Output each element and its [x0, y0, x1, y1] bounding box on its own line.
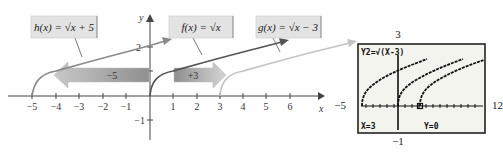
x-axis-arrow-icon — [318, 92, 325, 100]
label-h: h(x) = √x + 5 — [31, 16, 97, 57]
x-tick-label: −3 — [74, 101, 85, 112]
y-axis-label: y — [138, 12, 144, 23]
figure: x y −5 −4 −3 −2 −1 1 2 3 4 — [0, 0, 503, 155]
x-tick-label: 6 — [288, 101, 293, 112]
x-axis-label: x — [318, 103, 324, 114]
label-f: f(x) = √x — [169, 16, 233, 55]
x-tick-label: 4 — [241, 101, 246, 112]
x-tick-label: 2 — [195, 101, 200, 112]
calc-xmax-label: 12 — [492, 99, 503, 111]
x-tick-label: −4 — [51, 101, 62, 112]
x-tick-label: −5 — [27, 101, 38, 112]
calc-cursor-x: X=3 — [361, 122, 376, 131]
calc-xmin-label: −5 — [334, 99, 346, 111]
calc-window-frame — [358, 44, 485, 133]
x-tick-label: −1 — [121, 101, 132, 112]
x-tick-label: 1 — [171, 101, 176, 112]
calc-cursor-y: Y=0 — [424, 122, 439, 131]
curve-g — [220, 42, 353, 96]
shift-left-arrow: −5 — [54, 62, 149, 88]
shift-right-arrow: +3 — [174, 62, 226, 88]
x-tick-labels: −5 −4 −3 −2 −1 1 2 3 4 5 6 — [27, 101, 293, 112]
curve-g-arrowhead-icon — [347, 39, 357, 47]
x-tick-label: 5 — [264, 101, 269, 112]
label-f-text: f(x) = √x — [181, 21, 220, 34]
shift-left-label: −5 — [107, 70, 118, 81]
calculator-screen: 3 −1 −5 12 Y — [334, 28, 503, 147]
calc-ymin-label: −1 — [392, 135, 404, 147]
y-axis-arrow-icon — [146, 14, 154, 22]
y-tick-label: −1 — [134, 115, 145, 126]
shift-right-label: +3 — [188, 70, 199, 81]
label-g-text: g(x) = √x − 3 — [258, 21, 318, 34]
calc-ymax-label: 3 — [395, 28, 401, 40]
x-tick-label: −2 — [98, 101, 109, 112]
curve-f-arrowhead-icon — [279, 38, 289, 46]
calc-header-text: Y2=√(X-3) — [361, 48, 404, 57]
label-h-text: h(x) = √x + 5 — [34, 21, 94, 34]
x-tick-label: 3 — [218, 101, 223, 112]
